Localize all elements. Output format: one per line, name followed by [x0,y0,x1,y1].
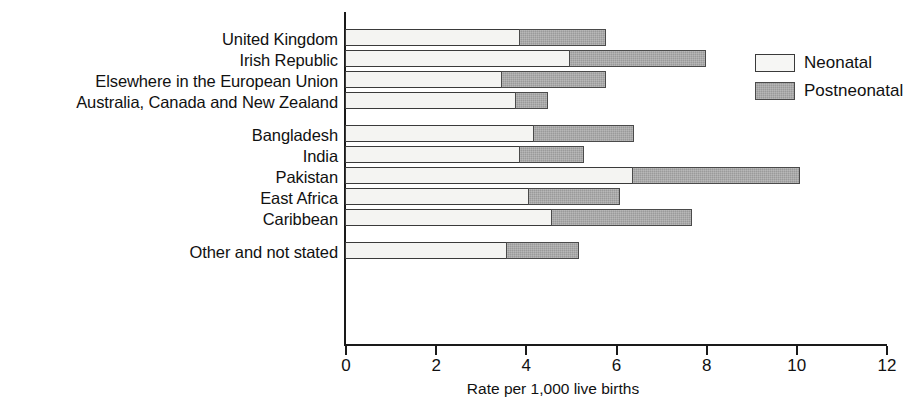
bar-segment-postneonatal [515,92,548,109]
x-axis-tick [706,346,708,355]
bar-row [345,125,634,142]
x-axis-tick-label: 4 [522,357,531,374]
bar-segment-postneonatal [519,146,584,163]
bar-segment-postneonatal [551,209,692,226]
category-labels: United KingdomIrish RepublicElsewhere in… [0,0,338,345]
bar-segment-neonatal [345,167,634,184]
category-label: Australia, Canada and New Zealand [0,94,338,111]
x-axis-tick-label: 2 [431,357,440,374]
bar-segment-neonatal [345,188,530,205]
x-axis-tick [796,346,798,355]
bar-segment-neonatal [345,29,521,46]
legend-label-postneonatal: Postneonatal [804,80,903,102]
x-axis-tick [435,346,437,355]
category-label: East Africa [0,190,338,207]
x-axis-title: Rate per 1,000 live births [0,381,906,397]
x-axis-tick-label: 8 [702,357,711,374]
bar-segment-neonatal [345,71,503,88]
stacked-bar-chart: United KingdomIrish RepublicElsewhere in… [0,0,906,403]
x-axis-tick-label: 10 [787,357,806,374]
bar-segment-postneonatal [528,188,620,205]
x-axis-tick [886,346,888,355]
bar-row [345,188,620,205]
bar-segment-postneonatal [501,71,606,88]
bar-row [345,242,579,259]
legend-label-neonatal: Neonatal [804,52,872,74]
bar-row [345,50,706,67]
bar-row [345,209,692,226]
category-label: Pakistan [0,169,338,186]
bar-segment-neonatal [345,92,516,109]
bar-segment-postneonatal [632,167,800,184]
bar-segment-neonatal [345,50,570,67]
category-label: Other and not stated [0,244,338,261]
bar-segment-postneonatal [506,242,580,259]
category-label: Irish Republic [0,52,338,69]
bar-row [345,71,606,88]
x-axis-tick [616,346,618,355]
legend-swatch-postneonatal-icon [755,82,795,100]
bar-segment-postneonatal [569,50,706,67]
legend-swatch-neonatal-icon [755,54,795,72]
category-label: United Kingdom [0,31,338,48]
category-label: Caribbean [0,211,338,228]
bar-segment-postneonatal [533,125,634,142]
bar-segment-neonatal [345,146,521,163]
category-label: India [0,148,338,165]
bar-segment-neonatal [345,125,534,142]
x-axis-tick-label: 6 [612,357,621,374]
bar-segment-neonatal [345,209,552,226]
category-label: Bangladesh [0,127,338,144]
x-axis-tick [345,346,347,355]
x-axis-tick [525,346,527,355]
x-axis-tick-label: 0 [341,357,350,374]
category-label: Elsewhere in the European Union [0,73,338,90]
bar-row [345,146,584,163]
bar-row [345,29,606,46]
x-axis-tick-label: 12 [878,357,897,374]
bar-row [345,92,548,109]
bar-row [345,167,800,184]
bar-segment-postneonatal [519,29,606,46]
bar-segment-neonatal [345,242,507,259]
